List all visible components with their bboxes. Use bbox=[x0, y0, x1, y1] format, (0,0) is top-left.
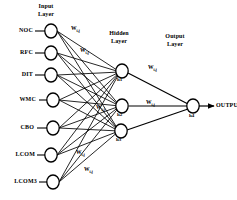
weight-subscript-4: i,j bbox=[152, 103, 155, 107]
hidden-layer-title: Hidden Layer bbox=[101, 30, 137, 45]
input-label-lcom3: LCOM3 bbox=[0, 178, 37, 184]
output-text: OUTPUT bbox=[216, 102, 237, 108]
weight-subscript-3: i,j bbox=[154, 68, 157, 72]
weight-label-6: Wi,j bbox=[76, 149, 85, 157]
node-h2 bbox=[116, 99, 128, 113]
weight-label-7: Wi,j bbox=[84, 166, 93, 174]
node-i7 bbox=[47, 175, 59, 189]
input-label-rfc: RFC bbox=[0, 49, 33, 55]
weight-label-4: Wi,j bbox=[146, 99, 155, 107]
hidden-node-label-h2: h2 bbox=[117, 112, 122, 117]
input-label-dit: DIT bbox=[0, 71, 33, 77]
input-label-noc: NOC bbox=[0, 27, 33, 33]
neural-network-diagram: Input Layer Hidden Layer Output Layer NO… bbox=[0, 0, 237, 200]
node-i2 bbox=[45, 46, 57, 60]
node-i5 bbox=[47, 121, 59, 135]
node-i6 bbox=[45, 148, 57, 162]
node-i4 bbox=[47, 93, 59, 107]
weight-label-1: Wi,j bbox=[71, 25, 80, 33]
weight-subscript-6: i,j bbox=[82, 153, 85, 157]
hidden-nodes bbox=[115, 64, 128, 138]
hidden-to-output-edges bbox=[127, 73, 188, 130]
node-i3 bbox=[45, 68, 57, 82]
weight-label-3: Wi,j bbox=[148, 64, 157, 72]
hidden-node-label-h3: h3 bbox=[116, 137, 121, 142]
input-nodes bbox=[45, 24, 59, 189]
input-label-lcom: LCOM bbox=[0, 151, 35, 157]
output-nodes bbox=[187, 99, 199, 113]
input-label-wmc: WMC bbox=[0, 96, 36, 102]
output-layer-title: Output Layer bbox=[157, 33, 193, 48]
weight-label-5: Wi,j bbox=[96, 104, 105, 112]
hidden-node-label-h1: h1 bbox=[117, 77, 122, 82]
input-label-cbo: CBO bbox=[0, 124, 34, 130]
weight-subscript-7: i,j bbox=[90, 170, 93, 174]
node-i1 bbox=[45, 24, 57, 38]
input-layer-title: Input Layer bbox=[29, 3, 63, 18]
weight-subscript-5: i,j bbox=[102, 108, 105, 112]
node-h1 bbox=[116, 64, 128, 78]
node-h3 bbox=[115, 124, 127, 138]
weight-subscript-1: i,j bbox=[77, 29, 80, 33]
output-node-label-h4: h4 bbox=[189, 113, 194, 118]
weight-subscript-2: i,j bbox=[86, 51, 89, 55]
weight-label-2: Wi,j bbox=[80, 47, 89, 55]
node-h4 bbox=[187, 99, 199, 113]
